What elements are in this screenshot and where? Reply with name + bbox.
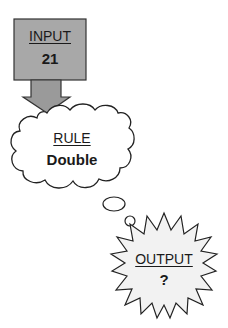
output-heading: OUTPUT xyxy=(124,252,204,266)
function-machine-diagram: INPUT 21 RULE Double OUTPUT ? xyxy=(0,0,228,328)
rule-cloud-shape xyxy=(11,104,134,188)
output-value: ? xyxy=(124,272,204,287)
rule-heading: RULE xyxy=(20,131,124,145)
rule-value: Double xyxy=(20,152,124,167)
thought-bubble-large xyxy=(103,197,125,211)
input-heading: INPUT xyxy=(14,29,86,43)
input-value: 21 xyxy=(14,51,86,66)
